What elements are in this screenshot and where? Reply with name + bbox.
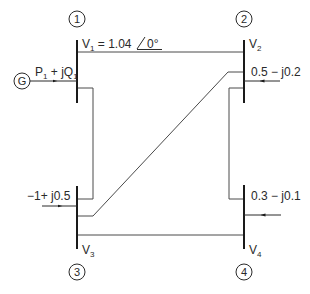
line-2-4: [229, 88, 244, 199]
bus-3-injection-value: −1+ j0.5: [27, 189, 71, 203]
bus-1-voltage-label: V1 = 1.04: [82, 37, 132, 53]
bus-1-angle: 0°: [147, 37, 159, 51]
generator-power-label: P1 + jQ1: [35, 65, 78, 81]
bus-2-voltage-label: V2: [249, 37, 262, 53]
transmission-lines: [77, 52, 244, 235]
generator: G P1 + jQ1: [14, 65, 78, 89]
bus-2-number: 2: [241, 13, 247, 25]
line-2-3: [77, 72, 244, 216]
bus-2-injection-value: 0.5 − j0.2: [251, 65, 301, 79]
angle-symbol-icon: [137, 37, 145, 49]
bus-4-injection-value: 0.3 − j0.1: [251, 189, 301, 203]
bus-number-labels: 1 2 3 4: [69, 11, 252, 280]
bus-3-number: 3: [74, 266, 80, 278]
bus-4-voltage-label: V4: [249, 243, 262, 259]
injection-labels: 0.5 − j0.2 −1+ j0.5 0.3 − j0.1: [27, 65, 301, 203]
generator-symbol: G: [18, 75, 27, 87]
line-1-3: [77, 88, 93, 199]
power-system-diagram: G P1 + jQ1 1 2 3 4 V1 = 1.04 0° V2 V3 V4…: [0, 0, 310, 294]
voltage-labels: V1 = 1.04 0° V2 V3 V4: [82, 37, 262, 259]
bus-4-number: 4: [241, 266, 247, 278]
bus-1-number: 1: [74, 13, 80, 25]
bus-3-voltage-label: V3: [82, 243, 95, 259]
